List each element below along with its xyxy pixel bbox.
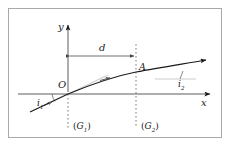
incident-angle-label: i1 (37, 99, 43, 110)
grating-1-symbol: G (77, 121, 84, 131)
origin-label: O (58, 80, 66, 90)
y-axis-label: y (58, 22, 64, 32)
emergent-angle-label: i2 (178, 80, 184, 91)
grating-2-symbol: G (145, 121, 152, 131)
grating-2-close-paren: ) (155, 121, 159, 131)
i2-angle-mark (180, 71, 183, 79)
ray-diagram-figure: y x O A d i1 i2 (G1) (G2) (0, 0, 232, 148)
diagram-canvas (0, 0, 232, 148)
distance-label: d (99, 43, 105, 53)
incident-angle-subscript: 1 (40, 104, 44, 110)
incident-ray-arrow (44, 102, 52, 106)
emergent-angle-subscript: 2 (181, 85, 185, 91)
x-axis-label: x (201, 98, 207, 108)
ray-curve (68, 60, 206, 94)
grating-1-close-paren: ) (87, 121, 91, 131)
grating-1-label: (G1) (73, 122, 91, 133)
point-a-label: A (139, 62, 146, 72)
grating-2-label: (G2) (141, 122, 159, 133)
